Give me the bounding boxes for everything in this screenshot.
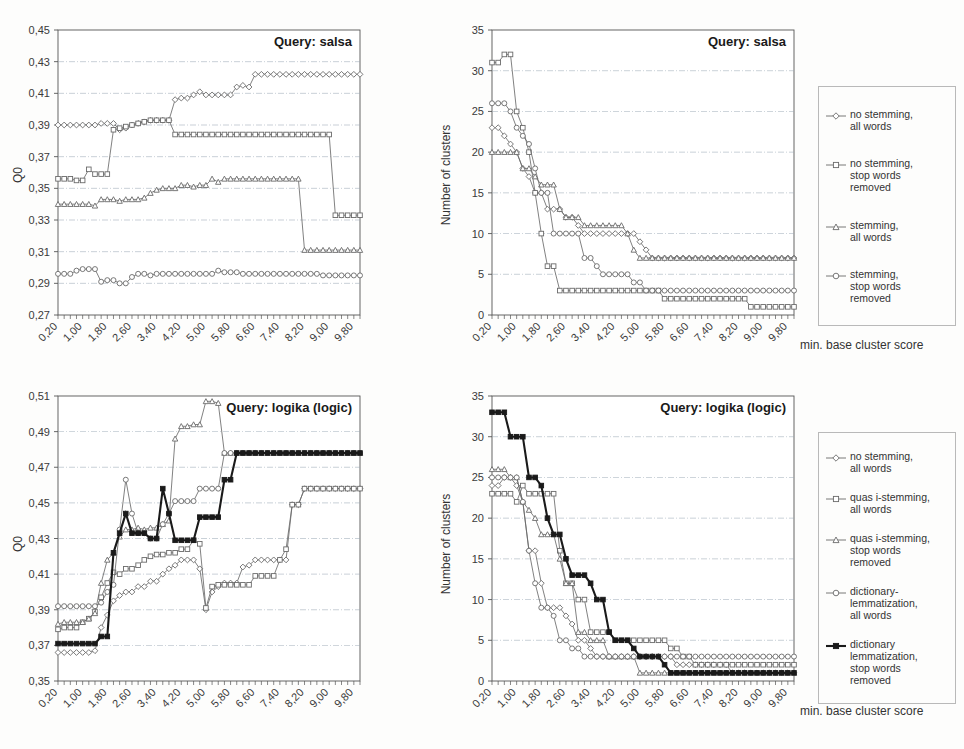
series-marker-1 — [779, 662, 784, 667]
series-marker-3 — [333, 273, 338, 278]
series-marker-3 — [179, 499, 184, 504]
legend-item-label: dictionary- lemmatization, all words — [850, 585, 918, 621]
series-marker-1 — [631, 288, 636, 293]
series-marker-4 — [290, 451, 295, 456]
series-marker-4 — [296, 451, 301, 456]
series-marker-4 — [786, 671, 791, 676]
series-marker-1 — [582, 597, 587, 602]
series-marker-1 — [662, 296, 667, 301]
series-marker-1 — [327, 132, 332, 137]
series-marker-1 — [271, 132, 276, 137]
series-marker-1 — [296, 502, 301, 507]
series-marker-1 — [339, 486, 344, 491]
ytick-label: 0,45 — [29, 24, 50, 36]
ytick-label: 0,47 — [29, 461, 50, 473]
ytick-label: 0,45 — [29, 497, 50, 509]
series-marker-4 — [594, 597, 599, 602]
series-marker-1 — [117, 126, 122, 131]
series-marker-1 — [352, 213, 357, 218]
series-marker-4 — [668, 671, 673, 676]
legend-item[interactable]: quas i-stemming, stop words removed — [825, 532, 951, 568]
series-marker-3 — [160, 271, 165, 276]
series-marker-3 — [210, 486, 215, 491]
ytick-label: 10 — [472, 228, 484, 240]
series-marker-4 — [154, 536, 159, 541]
series-marker-1 — [693, 662, 698, 667]
series-marker-1 — [705, 296, 710, 301]
series-marker-1 — [173, 132, 178, 137]
ytick-label: 0 — [478, 309, 484, 321]
series-marker-3 — [123, 477, 128, 482]
series-marker-3 — [588, 256, 593, 261]
xtick-label: 3,40 — [134, 320, 158, 344]
series-marker-1 — [539, 231, 544, 236]
series-marker-3 — [557, 638, 562, 643]
series-marker-1 — [185, 132, 190, 137]
series-marker-4 — [117, 531, 122, 536]
series-marker-1 — [167, 550, 172, 555]
series-marker-1 — [533, 491, 538, 496]
series-marker-3 — [761, 288, 766, 293]
legend-item[interactable]: stemming, stop words removed — [825, 268, 951, 304]
ytick-label: 0,51 — [29, 390, 50, 402]
legend-item[interactable]: dictionary- lemmatization, all words — [825, 585, 951, 621]
legend-item[interactable]: quas i-stemming, all words — [825, 491, 951, 515]
series-marker-3 — [631, 280, 636, 285]
chart-svg-logika-clusters[interactable]: 051015202530350,201,001,802,603,404,205,… — [430, 374, 820, 749]
chart-svg-logika-q0[interactable]: 0,350,370,390,410,430,450,470,490,510,20… — [0, 374, 430, 749]
series-marker-3 — [92, 604, 97, 609]
series-marker-3 — [773, 288, 778, 293]
y-axis-title: Number of clusters — [439, 125, 453, 226]
ytick-label: 15 — [472, 187, 484, 199]
series-marker-3 — [699, 288, 704, 293]
series-marker-3 — [160, 522, 165, 527]
series-marker-4 — [210, 515, 215, 520]
series-marker-1 — [142, 120, 147, 125]
series-marker-3 — [644, 288, 649, 293]
series-marker-4 — [730, 671, 735, 676]
chart-svg-salsa-q0[interactable]: 0,270,290,310,330,350,370,390,410,430,45… — [0, 0, 430, 375]
series-marker-1 — [545, 264, 550, 269]
xtick-label: 9,00 — [741, 320, 765, 344]
series-marker-3 — [302, 271, 307, 276]
legend-item[interactable]: no stemming, stop words removed — [825, 157, 951, 193]
series-marker-1 — [551, 491, 556, 496]
series-marker-3 — [576, 231, 581, 236]
series-marker-4 — [345, 451, 350, 456]
series-marker-1 — [259, 132, 264, 137]
xtick-label: 5,00 — [618, 686, 642, 710]
series-marker-3 — [105, 589, 110, 594]
series-marker-3 — [668, 288, 673, 293]
series-marker-4 — [749, 671, 754, 676]
legend-item[interactable]: dictionary lemmatization, stop words rem… — [825, 638, 951, 686]
series-marker-3 — [674, 288, 679, 293]
ytick-label: 0,37 — [29, 151, 50, 163]
ytick-label: 0,31 — [29, 246, 50, 258]
series-marker-3 — [779, 654, 784, 659]
series-marker-1 — [148, 118, 153, 123]
ytick-label: 0,35 — [29, 182, 50, 194]
legend-item-label: dictionary lemmatization, stop words rem… — [850, 638, 918, 686]
series-marker-4 — [662, 662, 667, 667]
series-marker-3 — [514, 475, 519, 480]
legend-item[interactable]: no stemming, all words — [825, 450, 951, 474]
series-marker-4 — [327, 451, 332, 456]
series-marker-1 — [352, 486, 357, 491]
series-marker-3 — [773, 654, 778, 659]
series-marker-1 — [551, 264, 556, 269]
xtick-label: 9,00 — [741, 686, 765, 710]
xtick-label: 5,80 — [642, 320, 666, 344]
series-marker-4 — [742, 671, 747, 676]
chart-svg-salsa-clusters[interactable]: 051015202530350,201,001,802,603,404,205,… — [430, 0, 820, 375]
series-marker-3 — [779, 288, 784, 293]
legend-item[interactable]: no stemming, all words — [825, 108, 951, 132]
legend-item[interactable]: stemming, all words — [825, 219, 951, 243]
series-marker-3 — [576, 646, 581, 651]
series-marker-4 — [148, 536, 153, 541]
series-marker-4 — [234, 451, 239, 456]
series-marker-3 — [705, 288, 710, 293]
series-marker-1 — [761, 662, 766, 667]
series-marker-1 — [241, 583, 246, 588]
series-marker-3 — [730, 288, 735, 293]
series-marker-3 — [600, 654, 605, 659]
